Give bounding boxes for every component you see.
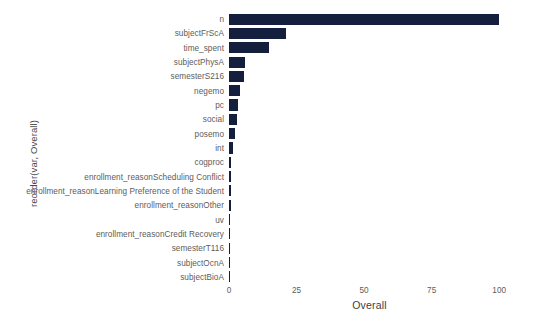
x-axis-tick-label: 100 bbox=[492, 286, 506, 295]
category-label: subjectBioA bbox=[180, 272, 224, 281]
bar bbox=[229, 71, 244, 82]
bar bbox=[229, 271, 230, 282]
bar-row: enrollment_reasonOther bbox=[229, 198, 510, 212]
bar-row: enrollment_reasonScheduling Conflict bbox=[229, 169, 510, 183]
bar bbox=[229, 99, 238, 110]
bar bbox=[229, 85, 240, 96]
category-label: time_spent bbox=[183, 43, 224, 52]
bar bbox=[229, 200, 231, 211]
category-label: n bbox=[219, 15, 224, 24]
bar bbox=[229, 114, 237, 125]
y-axis-title: reorder(var, Overall) bbox=[24, 0, 42, 327]
bar-row: enrollment_reasonCredit Recovery bbox=[229, 227, 510, 241]
bar-row: semesterS216 bbox=[229, 69, 510, 83]
category-label: pc bbox=[215, 101, 224, 110]
bar-row: social bbox=[229, 112, 510, 126]
bar bbox=[229, 185, 231, 196]
x-axis-tick-label: 25 bbox=[292, 286, 301, 295]
bar-row: subjectBioA bbox=[229, 270, 510, 284]
bar bbox=[229, 228, 230, 239]
bar bbox=[229, 257, 230, 268]
category-label: uv bbox=[215, 215, 224, 224]
bar bbox=[229, 42, 269, 53]
bar-row: cogproc bbox=[229, 155, 510, 169]
bar-row: pc bbox=[229, 98, 510, 112]
category-label: enrollment_reasonOther bbox=[135, 201, 224, 210]
bar bbox=[229, 28, 286, 39]
x-axis-tick-label: 0 bbox=[227, 286, 232, 295]
variable-importance-chart: reorder(var, Overall) nsubjectFrScAtime_… bbox=[0, 0, 534, 327]
bar-row: enrollment_reasonLearning Preference of … bbox=[229, 184, 510, 198]
category-label: enrollment_reasonCredit Recovery bbox=[96, 229, 224, 238]
bar bbox=[229, 243, 230, 254]
category-label: subjectFrScA bbox=[175, 29, 224, 38]
bar bbox=[229, 128, 235, 139]
bar bbox=[229, 14, 499, 25]
category-label: semesterT116 bbox=[172, 244, 224, 253]
bar-row: semesterT116 bbox=[229, 241, 510, 255]
bar-row: uv bbox=[229, 212, 510, 226]
bar-row: negemo bbox=[229, 84, 510, 98]
bar-row: posemo bbox=[229, 127, 510, 141]
bar bbox=[229, 157, 231, 168]
category-label: negemo bbox=[194, 86, 224, 95]
bar bbox=[229, 171, 231, 182]
bar-row: subjectPhysA bbox=[229, 55, 510, 69]
x-axis: 0255075100 bbox=[229, 286, 510, 300]
x-axis-tick-label: 75 bbox=[427, 286, 436, 295]
category-label: subjectOcnA bbox=[177, 258, 224, 267]
plot-area: nsubjectFrScAtime_spentsubjectPhysAsemes… bbox=[229, 12, 510, 284]
category-label: enrollment_reasonLearning Preference of … bbox=[26, 186, 224, 195]
x-axis-tick-label: 50 bbox=[360, 286, 369, 295]
bar bbox=[229, 142, 233, 153]
bar-row: n bbox=[229, 12, 510, 26]
category-label: cogproc bbox=[195, 158, 224, 167]
bar-row: subjectOcnA bbox=[229, 255, 510, 269]
category-label: semesterS216 bbox=[171, 72, 224, 81]
bar-row: int bbox=[229, 141, 510, 155]
category-label: int bbox=[215, 143, 224, 152]
bar-row: time_spent bbox=[229, 41, 510, 55]
bar-row: subjectFrScA bbox=[229, 26, 510, 40]
category-label: posemo bbox=[195, 129, 224, 138]
category-label: subjectPhysA bbox=[174, 58, 224, 67]
category-label: social bbox=[203, 115, 224, 124]
bar bbox=[229, 57, 245, 68]
x-axis-title: Overall bbox=[229, 299, 510, 311]
bar bbox=[229, 214, 230, 225]
category-label: enrollment_reasonScheduling Conflict bbox=[84, 172, 224, 181]
